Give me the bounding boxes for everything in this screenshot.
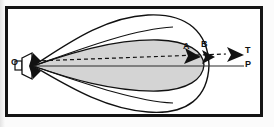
- label-origin-o: O: [11, 58, 18, 67]
- figure-root: O A B T P: [0, 0, 274, 127]
- label-point-a: A: [183, 42, 190, 51]
- arrowhead-t-icon: [227, 47, 244, 62]
- label-axis-t: T: [245, 46, 251, 55]
- figure-frame: [5, 6, 263, 117]
- label-point-b: B: [201, 40, 208, 49]
- beam-pattern-drawing: [8, 9, 260, 114]
- label-axis-p: P: [245, 60, 251, 69]
